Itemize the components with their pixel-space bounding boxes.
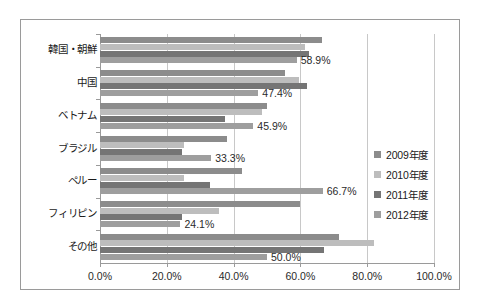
bar [100,44,305,50]
legend-item[interactable]: 2011年度 [374,184,458,204]
bar [100,221,180,227]
bar [100,57,297,63]
value-axis-tick-label: 0.0% [73,270,127,282]
bar [100,70,285,76]
value-axis-line [100,263,435,264]
category-label: フィリピン [23,208,97,219]
value-tickmark [234,263,235,267]
legend-label: 2012年度 [386,207,428,222]
bar [100,234,339,240]
bar [100,168,242,174]
category-label: ベトナム [23,110,97,121]
legend-square-marker-icon [374,211,381,218]
category-label: その他 [23,241,97,252]
bar [100,51,309,57]
category-label: 中国 [23,77,97,88]
bar [100,136,227,142]
data-label: 50.0% [271,252,301,263]
data-label: 33.3% [215,153,245,164]
value-tickmark [300,263,301,267]
category-label: ペルー [23,175,97,186]
legend-label: 2009年度 [386,147,428,162]
bar [100,254,267,260]
bar [100,155,211,161]
category-label: 韓国・朝鮮 [23,44,97,55]
legend-label: 2010年度 [386,167,428,182]
value-axis-tick-label: 100.0% [407,270,461,282]
bar [100,37,322,43]
bar-group [100,37,434,63]
value-tickmark [100,263,101,267]
category-axis-labels: 韓国・朝鮮中国ベトナムブラジルペルーフィリピンその他 [21,34,97,263]
legend-square-marker-icon [374,191,381,198]
bar [100,240,374,246]
value-axis-tick-label: 80.0% [340,270,394,282]
bar [100,208,219,214]
value-axis-tick-label: 20.0% [140,270,194,282]
bar [100,201,300,207]
bar [100,90,258,96]
data-label: 24.1% [184,219,214,230]
bar [100,182,210,188]
chart-legend: 2009年度2010年度2011年度2012年度 [374,144,458,224]
bar [100,103,267,109]
bar [100,188,323,194]
bar [100,214,182,220]
bar [100,142,184,148]
bar [100,175,184,181]
value-tickmark [434,263,435,267]
value-axis-tick-label: 40.0% [207,270,261,282]
legend-item[interactable]: 2012年度 [374,204,458,224]
chart-frame: 韓国・朝鮮中国ベトナムブラジルペルーフィリピンその他 58.9%47.4%45.… [20,19,460,290]
value-tickmark [367,263,368,267]
bar [100,116,225,122]
category-label: ブラジル [23,143,97,154]
bar-group [100,234,434,260]
data-label: 66.7% [327,186,357,197]
legend-item[interactable]: 2010年度 [374,164,458,184]
bar [100,123,253,129]
data-label: 47.4% [262,88,292,99]
value-axis-tick-label: 60.0% [273,270,327,282]
legend-square-marker-icon [374,151,381,158]
legend-label: 2011年度 [386,187,427,202]
bar [100,77,299,83]
data-label: 58.9% [301,55,331,66]
legend-square-marker-icon [374,171,381,178]
legend-item[interactable]: 2009年度 [374,144,458,164]
data-label: 45.9% [257,121,287,132]
bar [100,109,262,115]
bar [100,149,182,155]
value-tickmark [167,263,168,267]
